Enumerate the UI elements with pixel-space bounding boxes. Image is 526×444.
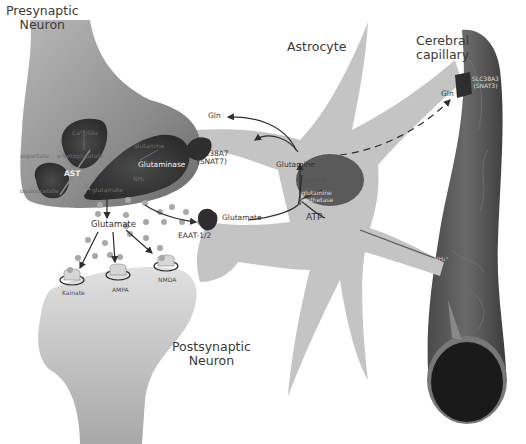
snat3-transporter (455, 72, 472, 98)
glutamate-astro-label: Glutamate (222, 214, 262, 222)
ast-label: AST (64, 170, 80, 178)
capillary-lumen (431, 342, 503, 422)
alpha-ketoglutarate-label: α-ketoglutarate (57, 153, 104, 160)
atp-label: ATP (306, 213, 322, 223)
aspartate-label: aspartate (20, 153, 49, 160)
adp-pi-label: ADP+Pi (304, 178, 327, 185)
gln-right-label: Gln (441, 90, 454, 98)
nmda-label: NMDA (158, 277, 176, 284)
glutamine-inner-label: glutamine (134, 143, 164, 150)
nh3-label: NH₃ (133, 176, 144, 183)
glutamate-cleft-label: Glutamate (91, 220, 136, 229)
presynaptic-neuron (20, 20, 201, 208)
oxaloacetate-label: oxaloacetate (20, 188, 59, 195)
ampa-label: AMPA (112, 287, 129, 294)
snat3-label: SLC38A3 (SNAT3) (472, 76, 499, 89)
kainate-label: Kainate (62, 290, 85, 297)
glutamine-astro-label: Glutamine (276, 161, 315, 169)
glutamate-inner-label: glutamate (92, 187, 123, 194)
mito-top-label: Ca²⁺/Glu (72, 130, 98, 137)
astrocyte-label: Astrocyte (287, 40, 346, 54)
glutamate-glutamine-cycle-diagram (0, 0, 526, 444)
snat7-label: SLC38A7 (SNAT7) (195, 150, 229, 167)
glutamine-synthetase-label: glutamine synthetase (300, 190, 333, 203)
gln-left-label: Gln (208, 112, 221, 120)
glutaminase-label: Glutaminase (138, 161, 185, 169)
postsynaptic-neuron-label: Postsynaptic Neuron (172, 340, 251, 368)
nh4-label: NH₄⁺ (434, 256, 449, 263)
cerebral-capillary-label: Cerebral capillary (416, 34, 469, 62)
presynaptic-neuron-label: Presynaptic Neuron (6, 4, 79, 32)
eaat-label: EAAT-1/2 (178, 232, 211, 240)
